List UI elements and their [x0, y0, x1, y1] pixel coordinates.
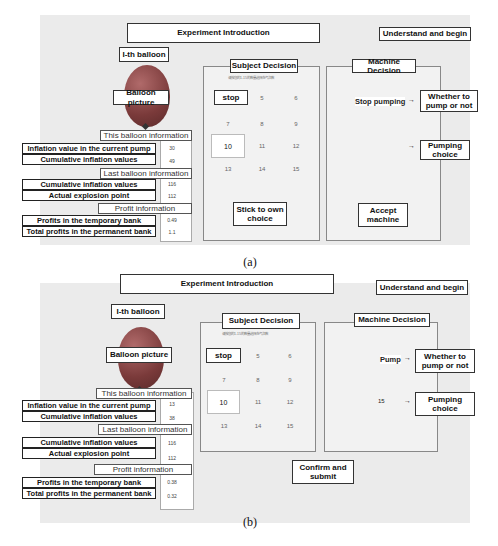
this-balloon-row-value: 13	[162, 401, 182, 407]
profit-row-value: 1.1	[162, 229, 182, 235]
confirm-and-submit-label: Confirm and submit	[293, 463, 353, 481]
number-option-10[interactable]: 10	[207, 390, 240, 414]
caption-a: (a)	[230, 255, 270, 270]
header-label: Experiment Introduction	[181, 279, 273, 288]
last-balloon-header: Last balloon information	[100, 168, 192, 179]
number-option-6[interactable]: 6	[276, 84, 316, 112]
profit-row-label: Profits in the temporary bank	[22, 215, 156, 226]
profit-row-label: Total profits in the permanent bank	[22, 226, 156, 237]
profit-row-label: Profits in the temporary bank	[22, 477, 156, 488]
understand-begin-button[interactable]: Understand and begin	[379, 27, 471, 41]
machine-choice-output: 15	[378, 398, 385, 404]
last-balloon-row-value: 112	[162, 455, 182, 461]
stick-to-own-choice-button[interactable]: Stick to own choice	[233, 202, 287, 226]
this-balloon-row-value: 38	[162, 415, 182, 421]
header-label: Experiment Introduction	[177, 28, 269, 37]
arrow-right-icon: →	[404, 354, 411, 361]
ith-balloon-text: I-th balloon	[122, 50, 165, 59]
profit-row-value: 0.38	[162, 479, 182, 485]
this-balloon-row-label: Inflation value in the current pump	[22, 143, 156, 154]
experiment-introduction-header: Experiment Introduction	[127, 23, 320, 43]
pumping-choice-text: Pumping choice	[416, 395, 474, 413]
profit-row-value: 0.32	[162, 493, 182, 499]
profit-header: Profit information	[94, 464, 192, 475]
this-balloon-header: This balloon information	[100, 130, 192, 141]
machine-pump-output: Pump	[380, 355, 401, 364]
arrow-right-icon: →	[408, 142, 415, 149]
stop-button[interactable]: stop	[206, 348, 241, 363]
whether-to-pump-box: Whether to pump or not	[415, 349, 475, 373]
profit-row-label: Total profits in the permanent bank	[22, 488, 156, 499]
understand-begin-label: Understand and begin	[380, 283, 464, 292]
accept-machine-label: Accept machine	[359, 206, 407, 224]
subject-decision-hint: 请按您的1-15的数量选择充气次数	[228, 75, 274, 80]
ith-balloon-label: I-th balloon	[119, 47, 169, 62]
understand-begin-label: Understand and begin	[383, 29, 467, 38]
arrow-right-icon: →	[408, 96, 415, 103]
subject-decision-title-text: Subject Decision	[232, 61, 296, 70]
ith-balloon-label: I-th balloon	[111, 304, 165, 319]
subject-decision-hint: 请按您的1-15的数量选择充气次数	[222, 331, 268, 336]
understand-begin-button[interactable]: Understand and begin	[376, 280, 468, 295]
pumping-choice-box: Pumping choice	[415, 392, 475, 416]
balloon-picture-label: Balloon picture	[106, 347, 172, 363]
machine-decision-title: Machine Decision	[352, 59, 416, 73]
this-balloon-row-label: Cumulative inflation values	[22, 154, 156, 165]
machine-decision-panel	[324, 322, 438, 452]
this-balloon-row-value: 49	[162, 158, 182, 164]
machine-decision-title-text: Machine Decision	[353, 57, 415, 75]
whether-to-pump-text: Whether to pump or not	[416, 352, 474, 370]
caption-b: (b)	[230, 515, 270, 530]
number-option-15[interactable]: 15	[276, 155, 316, 183]
machine-pump-output: Stop pumping	[355, 97, 405, 106]
subject-decision-title-text: Subject Decision	[229, 316, 293, 325]
this-balloon-row-label: Cumulative inflation values	[22, 411, 156, 422]
last-balloon-row-value: 112	[162, 193, 182, 199]
profit-header: Profit information	[98, 203, 192, 214]
profit-row-value: 0.49	[162, 217, 182, 223]
last-balloon-row-value: 116	[162, 181, 182, 187]
arrow-right-icon: →	[404, 397, 411, 404]
last-balloon-row-label: Actual explosion point	[22, 190, 156, 201]
this-balloon-row-label: Inflation value in the current pump	[22, 400, 156, 411]
last-balloon-row-label: Cumulative inflation values	[22, 179, 156, 190]
machine-decision-title-text: Machine Decision	[358, 315, 426, 324]
pumping-choice-box: Pumping choice	[420, 140, 470, 160]
subject-decision-title: Subject Decision	[222, 313, 300, 329]
subject-decision-title: Subject Decision	[230, 59, 298, 73]
balloon-picture-text: Balloon picture	[114, 88, 168, 106]
last-balloon-row-value: 116	[162, 440, 182, 446]
last-balloon-row-label: Cumulative inflation values	[22, 437, 156, 448]
whether-to-pump-box: Whether to pump or not	[420, 90, 478, 112]
confirm-and-submit-button[interactable]: Confirm and submit	[292, 460, 354, 484]
machine-decision-title: Machine Decision	[354, 313, 430, 327]
ith-balloon-text: I-th balloon	[116, 307, 159, 316]
last-balloon-row-label: Actual explosion point	[22, 448, 156, 459]
whether-to-pump-text: Whether to pump or not	[421, 92, 477, 110]
balloon-picture-text: Balloon picture	[110, 350, 168, 359]
stick-to-own-choice-label: Stick to own choice	[234, 205, 286, 223]
pumping-choice-text: Pumping choice	[421, 141, 469, 159]
accept-machine-button[interactable]: Accept machine	[358, 203, 408, 227]
this-balloon-row-value: 30	[162, 145, 182, 151]
this-balloon-header: This balloon information	[96, 388, 192, 399]
balloon-picture-label: Balloon picture	[113, 90, 169, 105]
last-balloon-header: Last balloon information	[98, 424, 192, 435]
number-option-15[interactable]: 15	[270, 412, 310, 440]
experiment-introduction-header: Experiment Introduction	[120, 274, 334, 294]
